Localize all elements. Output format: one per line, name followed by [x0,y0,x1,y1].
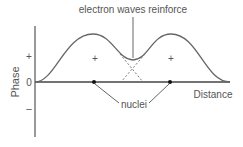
y-tick-plus: + [26,51,32,62]
nuclei-label: nuclei [121,99,147,110]
nucleus-left [92,80,96,84]
y-tick-zero: 0 [26,77,32,88]
x-axis-label: Distance [194,89,233,100]
reinforce-label: electron waves reinforce [79,4,188,15]
y-axis-label: Phase [9,66,21,97]
nucleus-right [168,80,172,84]
region-sign-left: + [92,53,98,64]
nuclei-pointer-right [149,84,169,103]
y-tick-minus: – [26,103,32,114]
nuclei-pointer-left [95,84,119,103]
region-sign-right: + [168,53,174,64]
dashed-wave-right [121,54,145,82]
orbital-overlap-diagram: Phase + 0 – + + electron waves reinforce… [0,0,243,147]
